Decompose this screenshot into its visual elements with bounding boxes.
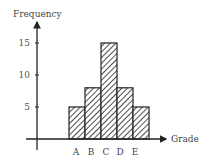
bars-group: [69, 43, 149, 139]
bar-b: [85, 88, 101, 139]
y-tick-label: 5: [24, 102, 30, 112]
x-tick-label-d: D: [116, 147, 123, 157]
x-tick-label-b: B: [88, 147, 95, 157]
x-tick-label-c: C: [103, 147, 110, 157]
y-axis-label: Frequency: [13, 9, 63, 19]
bar-e: [133, 107, 149, 139]
x-tick-labels: ABCDE: [72, 147, 139, 157]
y-tick-label: 10: [19, 70, 31, 80]
x-tick-label-a: A: [72, 147, 80, 157]
x-axis-label: Grade: [171, 134, 199, 144]
bar-a: [69, 107, 85, 139]
x-tick-label-e: E: [132, 147, 139, 157]
y-ticks: 51015: [19, 38, 39, 112]
y-tick-label: 15: [19, 38, 31, 48]
histogram-chart: 51015 ABCDE Frequency Grade: [0, 0, 210, 162]
bar-c: [101, 43, 117, 139]
bar-d: [117, 88, 133, 139]
